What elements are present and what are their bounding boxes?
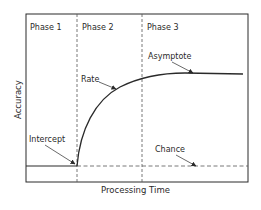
asymptote-label: Asymptote <box>148 52 191 61</box>
phase-1-label: Phase 1 <box>30 23 62 32</box>
y-axis-label: Accuracy <box>13 80 23 119</box>
chance-label: Chance <box>155 145 185 154</box>
intercept-label: Intercept <box>29 135 65 144</box>
speed-accuracy-diagram: Phase 1 Phase 2 Phase 3 Rate Asymptote I… <box>0 0 261 210</box>
phase-2-label: Phase 2 <box>82 23 114 32</box>
rate-label: Rate <box>81 75 99 84</box>
phase-3-label: Phase 3 <box>147 23 179 32</box>
plot-frame <box>26 14 248 182</box>
intercept-arrow <box>45 145 75 164</box>
asymptote-arrow <box>172 62 193 73</box>
x-axis-label: Processing Time <box>101 185 170 195</box>
rate-arrow <box>99 82 116 89</box>
chance-arrow <box>176 155 196 166</box>
